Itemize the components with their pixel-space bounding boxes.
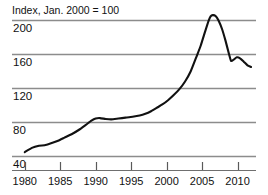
y-axis-label-120: 120: [13, 90, 32, 102]
chart-title: Index, Jan. 2000 = 100: [12, 4, 119, 16]
x-axis-label-2010: 2010: [225, 175, 249, 187]
x-axis-label-2000: 2000: [154, 175, 178, 187]
chart-container: 4080120160200 Index, Jan. 2000 = 100 198…: [0, 0, 268, 195]
x-axis-label-1995: 1995: [119, 175, 143, 187]
line-chart: 4080120160200 Index, Jan. 2000 = 100 198…: [0, 0, 268, 195]
y-axis-label-200: 200: [13, 22, 32, 34]
x-axis-label-2005: 2005: [190, 175, 214, 187]
chart-background: [0, 0, 268, 195]
y-axis-label-160: 160: [13, 56, 32, 68]
x-axis-label-1990: 1990: [83, 175, 107, 187]
x-axis-label-1980: 1980: [13, 175, 37, 187]
x-axis-label-1985: 1985: [48, 175, 72, 187]
x-axis-labels-group: 1980198519901995200020052010: [13, 175, 250, 187]
y-axis-label-80: 80: [13, 124, 26, 136]
y-axis-label-40: 40: [13, 158, 26, 170]
